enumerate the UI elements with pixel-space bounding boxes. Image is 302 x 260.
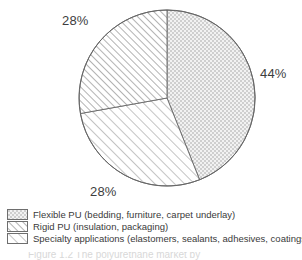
legend-swatch-flexible-pu: [7, 209, 28, 220]
figure-caption-text: Figure 1.2 The polyurethane market by: [28, 252, 200, 260]
pie-chart-figure: 28% 44% 28% Flexible PU (bedding, furnit…: [0, 0, 302, 260]
legend-label-specialty-applications: Specialty applications (elastomers, seal…: [33, 233, 302, 244]
legend-item-specialty-applications[interactable]: Specialty applications (elastomers, seal…: [7, 232, 299, 244]
legend-label-flexible-pu: Flexible PU (bedding, furniture, carpet …: [33, 209, 235, 220]
legend-swatch-rigid-pu: [7, 221, 28, 232]
pie-chart-svg: [0, 0, 302, 205]
legend-label-rigid-pu: Rigid PU (insulation, packaging): [33, 221, 168, 232]
pie-value-label-specialty-applications: 28%: [90, 184, 117, 199]
pie-chart-plot-area: 28% 44% 28%: [0, 0, 302, 205]
legend-item-rigid-pu[interactable]: Rigid PU (insulation, packaging): [7, 220, 299, 232]
legend-swatch-specialty-applications: [7, 233, 28, 244]
chart-legend: Flexible PU (bedding, furniture, carpet …: [7, 208, 299, 244]
pie-value-label-flexible-pu: 44%: [260, 66, 287, 81]
pie-value-label-rigid-pu: 28%: [62, 13, 89, 28]
figure-caption-clipped: Figure 1.2 The polyurethane market by: [0, 252, 302, 260]
pie-slice-rigid-pu[interactable]: [79, 10, 167, 114]
legend-item-flexible-pu[interactable]: Flexible PU (bedding, furniture, carpet …: [7, 208, 299, 220]
